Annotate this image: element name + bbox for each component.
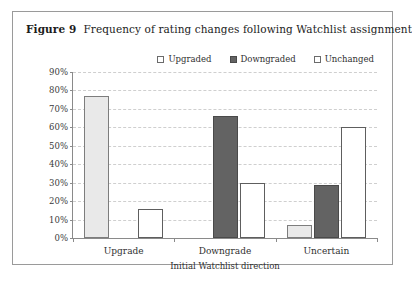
legend-swatch-downgraded-icon: [230, 56, 237, 63]
y-axis-tick-label: 70%: [49, 104, 68, 114]
figure-label: Figure 9: [26, 23, 76, 35]
legend-swatch-unchanged-icon: [314, 56, 321, 63]
bar-uncertain-unchanged: [341, 127, 366, 238]
legend-item-upgraded[interactable]: Upgraded: [157, 54, 211, 64]
legend-label-upgraded: Upgraded: [168, 54, 211, 64]
bar-uncertain-upgraded: [287, 225, 312, 238]
x-axis-category-label: Downgrade: [199, 246, 252, 256]
legend-label-unchanged: Unchanged: [325, 54, 374, 64]
y-axis-tick-label: 40%: [49, 159, 68, 169]
chart-area: Upgraded Downgraded Unchanged 0%10%20%30…: [13, 50, 394, 264]
y-axis-tick-label: 0%: [55, 233, 69, 243]
chart-legend: Upgraded Downgraded Unchanged: [72, 50, 376, 68]
bar-uncertain-downgraded: [314, 185, 339, 238]
y-axis-tick-label: 10%: [49, 215, 68, 225]
figure-container: Figure 9Frequency of rating changes foll…: [12, 11, 393, 265]
bar-upgrade-upgraded: [84, 96, 109, 238]
y-axis-tick-label: 90%: [49, 67, 68, 77]
y-axis-tick-label: 60%: [49, 122, 68, 132]
y-axis-tick-label: 20%: [49, 196, 68, 206]
legend-label-downgraded: Downgraded: [241, 54, 296, 64]
y-axis-tick-label: 50%: [49, 141, 68, 151]
bar-downgrade-downgraded: [213, 116, 238, 238]
x-axis-tick-mark: [73, 238, 74, 242]
legend-item-downgraded[interactable]: Downgraded: [230, 54, 296, 64]
x-axis-category-label: Upgrade: [104, 246, 144, 256]
bars-group: [73, 72, 377, 238]
y-axis-tick-label: 30%: [49, 178, 68, 188]
x-axis-category-label: Uncertain: [303, 246, 349, 256]
x-axis-tick-mark: [276, 238, 277, 242]
x-axis-tick-mark: [174, 238, 175, 242]
plot-area: 0%10%20%30%40%50%60%70%80%90% UpgradeDow…: [72, 72, 377, 239]
figure-caption-text: Frequency of rating changes following Wa…: [83, 23, 412, 35]
figure-caption: Figure 9Frequency of rating changes foll…: [26, 23, 412, 35]
legend-item-unchanged[interactable]: Unchanged: [314, 54, 374, 64]
x-axis-tick-mark: [377, 238, 378, 242]
x-axis-title: Initial Watchlist direction: [170, 261, 280, 271]
y-axis-tick-label: 80%: [49, 85, 68, 95]
bar-downgrade-unchanged: [240, 183, 265, 238]
bar-upgrade-unchanged: [138, 209, 163, 239]
legend-swatch-upgraded-icon: [157, 56, 164, 63]
